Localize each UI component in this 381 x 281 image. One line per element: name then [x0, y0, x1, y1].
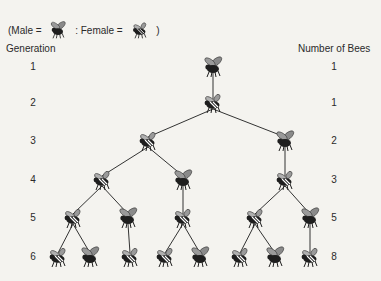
tree-edge — [213, 109, 285, 137]
male-bee-icon — [265, 245, 285, 267]
female-bee-icon — [93, 170, 110, 190]
female-bee-icon — [49, 247, 66, 267]
family-tree — [0, 0, 381, 281]
tree-edge — [102, 147, 148, 176]
tree-edge — [165, 224, 183, 253]
female-bee-icon — [231, 247, 248, 267]
tree-edge — [240, 224, 255, 253]
male-bee-icon — [190, 245, 210, 267]
tree-edge — [128, 224, 130, 253]
tree-edge — [148, 109, 213, 137]
female-bee-icon — [156, 247, 173, 267]
tree-edge — [58, 224, 73, 253]
female-bee-icon — [139, 131, 156, 151]
male-bee-icon — [80, 245, 100, 267]
